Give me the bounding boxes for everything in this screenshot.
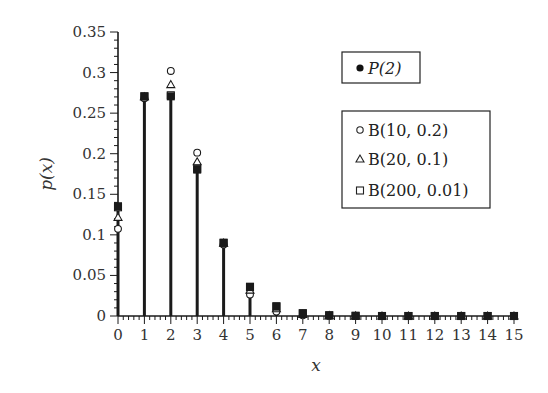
filled-square-marker [246,283,254,291]
filled-circle-icon [356,64,363,71]
filled-square-marker [299,309,307,317]
x-tick-label: 10 [372,326,391,344]
legend-label-b10: B(10, 0.2) [368,121,448,140]
open-circle-icon [357,127,363,133]
filled-square-marker [140,92,148,100]
legend-label-poisson: P(2) [367,59,401,78]
filled-square-marker [114,202,122,210]
filled-square-marker [378,312,386,320]
x-tick-label: 0 [113,326,123,344]
y-tick-label: 0.3 [82,64,106,82]
y-tick-label: 0 [96,307,106,325]
x-tick-label: 11 [399,326,418,344]
x-tick-label: 2 [166,326,176,344]
filled-square-marker [510,312,518,320]
open-triangle-marker [114,213,122,220]
x-tick-label: 5 [245,326,255,344]
filled-square-marker [457,312,465,320]
y-tick-label: 0.35 [73,23,106,41]
x-tick-label: 13 [452,326,471,344]
x-tick-label: 12 [425,326,444,344]
legend-label-b20: B(20, 0.1) [368,150,448,169]
legend-binomial: B(10, 0.2) B(20, 0.1) B(200, 0.01) [342,111,490,208]
filled-square-marker [167,92,175,100]
x-tick-label: 8 [324,326,334,344]
y-tick-label: 0.25 [73,104,106,122]
filled-square-marker [272,302,280,310]
open-circle-marker [194,149,201,156]
open-circle-marker [115,225,122,232]
filled-square-marker [220,239,228,247]
x-tick-label: 3 [192,326,202,344]
x-tick-label: 1 [140,326,150,344]
filled-square-marker [484,312,492,320]
open-square-icon [357,187,364,194]
x-tick-label: 4 [219,326,229,344]
open-triangle-marker [167,81,175,88]
y-tick-label: 0.15 [73,185,106,203]
stem-chart: 00.050.10.150.20.250.30.3501234567891011… [0,0,548,393]
filled-square-marker [193,166,201,174]
open-circle-marker [167,68,174,75]
x-tick-label: 7 [298,326,308,344]
x-axis-label: x [311,355,321,375]
x-tick-label: 6 [272,326,282,344]
y-tick-label: 0.1 [82,226,106,244]
x-tick-label: 9 [351,326,361,344]
open-triangle-marker [193,158,201,165]
x-tick-label: 14 [478,326,497,344]
filled-square-marker [431,312,439,320]
y-axis-label: p(x) [36,157,56,191]
legend-label-b200: B(200, 0.01) [368,181,469,200]
filled-square-marker [404,312,412,320]
filled-square-marker [325,311,333,319]
filled-square-marker [352,312,360,320]
y-tick-label: 0.2 [82,145,106,163]
y-tick-label: 0.05 [73,266,106,284]
x-tick-label: 15 [504,326,523,344]
legend-poisson: P(2) [342,52,420,83]
